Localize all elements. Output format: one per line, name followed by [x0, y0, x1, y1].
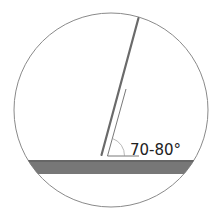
angle-label: 70-80°	[130, 141, 181, 159]
surface-bar	[0, 160, 220, 174]
diagram-canvas	[0, 0, 220, 220]
magnifier-circle	[14, 13, 208, 207]
